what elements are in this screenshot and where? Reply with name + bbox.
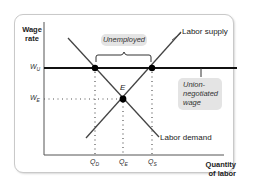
y-axis-title-line2: rate xyxy=(22,34,42,43)
unemployed-bracket xyxy=(96,52,151,62)
x-axis-title: Quantity of labor xyxy=(196,160,236,178)
tick-qe-sub: E xyxy=(124,161,127,167)
tick-wu-main: W xyxy=(30,63,37,70)
union-wage-label: Union- negotiated wage xyxy=(178,78,222,110)
tick-qs-sub: S xyxy=(153,161,156,167)
tick-qs: QS xyxy=(148,158,157,167)
union-wage-label-line3: wage xyxy=(183,98,222,107)
point-qs-wu xyxy=(149,65,155,71)
y-axis-title-line1: Wage xyxy=(22,25,42,34)
tick-qd-sub: D xyxy=(95,161,99,167)
tick-we-sub: E xyxy=(37,97,40,103)
labor-supply-curve xyxy=(86,32,181,138)
tick-we-main: W xyxy=(30,94,37,101)
union-wage-label-line1: Union- xyxy=(183,80,222,89)
labor-demand-curve xyxy=(68,38,159,137)
union-wage-label-line2: negotiated xyxy=(183,89,222,98)
tick-qd: QD xyxy=(90,158,99,167)
unemployed-label: Unemployed xyxy=(101,34,147,46)
tick-wu-sub: U xyxy=(37,66,41,72)
tick-we: WE xyxy=(30,94,40,103)
point-equilibrium xyxy=(120,96,127,103)
point-qd-wu xyxy=(92,65,98,71)
supply-leader xyxy=(172,33,181,40)
x-axis-title-line2: of labor xyxy=(196,169,236,178)
labor-supply-label: Labor supply xyxy=(182,27,228,36)
y-axis-title: Wage rate xyxy=(22,25,42,43)
x-axis-title-line1: Quantity xyxy=(196,160,236,169)
equilibrium-label: E xyxy=(120,83,125,92)
tick-wu: WU xyxy=(30,63,40,72)
labor-demand-label: Labor demand xyxy=(160,133,212,142)
tick-qe: QE xyxy=(119,158,128,167)
